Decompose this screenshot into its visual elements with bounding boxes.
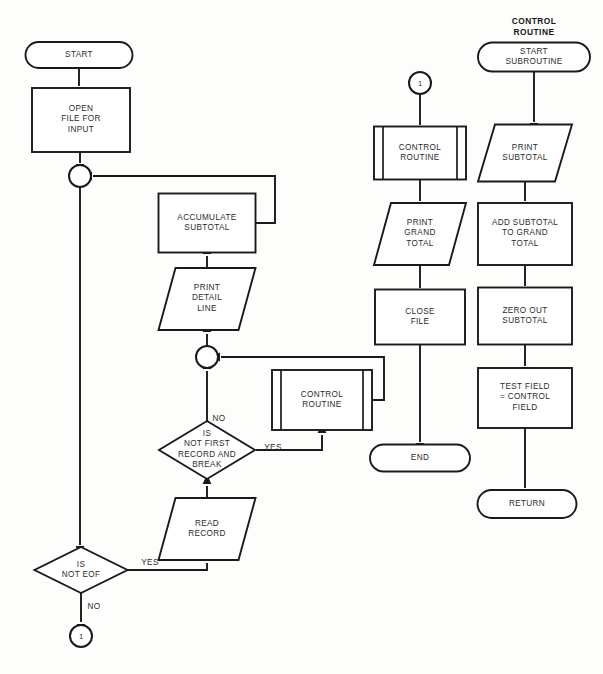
- connector-junction-after-break[interactable]: [196, 346, 218, 368]
- predefined-process-control-routine-loop-box[interactable]: [272, 370, 372, 430]
- decision-is-not-first-record-break[interactable]: [159, 421, 255, 479]
- edge-junction-to-eof: [76, 187, 85, 556]
- connector-junction-main-loop[interactable]: [69, 165, 91, 187]
- process-close-file[interactable]: [375, 290, 465, 345]
- connector-junction-main-loop-circle[interactable]: [69, 165, 91, 187]
- io-read-record[interactable]: [159, 498, 256, 560]
- process-zero-out-subtotal[interactable]: [478, 288, 572, 345]
- predefined-process-control-routine-loop[interactable]: [272, 370, 372, 430]
- flowchart-svg: [0, 0, 603, 674]
- edge-label-break-no: NO: [213, 414, 226, 424]
- edge-label-break-yes: YES: [264, 443, 281, 453]
- terminator-return-stadium[interactable]: [478, 490, 577, 518]
- edge-test-field-to-return: [521, 428, 530, 499]
- decision-is-not-eof-diamond[interactable]: [35, 547, 128, 593]
- terminator-return[interactable]: [478, 490, 577, 518]
- io-print-detail-line-parallelogram[interactable]: [159, 268, 256, 330]
- terminator-end-stadium[interactable]: [370, 445, 470, 472]
- io-read-record-parallelogram[interactable]: [159, 498, 256, 560]
- terminator-start-stadium[interactable]: [26, 42, 133, 68]
- connector-page-exit-1-label: 1: [79, 632, 83, 641]
- io-print-subtotal-parallelogram[interactable]: [478, 125, 572, 182]
- decision-is-not-eof[interactable]: [35, 547, 128, 593]
- edge-label-eof-no: NO: [88, 602, 101, 612]
- connector-junction-after-break-circle[interactable]: [196, 346, 218, 368]
- process-accumulate-subtotal-box[interactable]: [159, 194, 256, 253]
- terminator-start-subroutine[interactable]: [478, 43, 590, 72]
- predefined-process-control-routine-end-box[interactable]: [374, 127, 466, 180]
- edge-label-eof-yes: YES: [141, 558, 158, 568]
- control-routine-header: CONTROL ROUTINE: [512, 16, 557, 37]
- terminator-start[interactable]: [26, 42, 133, 68]
- process-test-field-equals-control[interactable]: [478, 368, 572, 428]
- connector-page-entry-1-label: 1: [418, 79, 422, 88]
- io-print-subtotal[interactable]: [478, 125, 572, 182]
- process-add-subtotal-to-grand-total[interactable]: [478, 203, 572, 265]
- io-print-detail-line[interactable]: [159, 268, 256, 330]
- terminator-start-subroutine-stadium[interactable]: [478, 43, 590, 72]
- process-accumulate-subtotal[interactable]: [159, 194, 256, 253]
- edge-start-sub-to-print-sub: [530, 72, 539, 133]
- process-zero-out-subtotal-box[interactable]: [478, 288, 572, 345]
- flowchart-canvas: STARTOPEN FILE FOR INPUTACCUMULATE SUBTO…: [0, 0, 603, 674]
- process-open-file-for-input-box[interactable]: [32, 88, 130, 152]
- edge-close-file-to-end: [416, 345, 425, 453]
- process-open-file-for-input[interactable]: [32, 88, 130, 152]
- process-test-field-equals-control-box[interactable]: [478, 368, 572, 428]
- process-add-subtotal-to-grand-total-box[interactable]: [478, 203, 572, 265]
- terminator-end[interactable]: [370, 445, 470, 472]
- io-print-grand-total-parallelogram[interactable]: [374, 203, 466, 265]
- predefined-process-control-routine-end[interactable]: [374, 127, 466, 180]
- process-close-file-box[interactable]: [375, 290, 465, 345]
- edge-eof-yes-to-read-record-line: [128, 563, 207, 570]
- decision-is-not-first-record-break-diamond[interactable]: [159, 421, 255, 479]
- io-print-grand-total[interactable]: [374, 203, 466, 265]
